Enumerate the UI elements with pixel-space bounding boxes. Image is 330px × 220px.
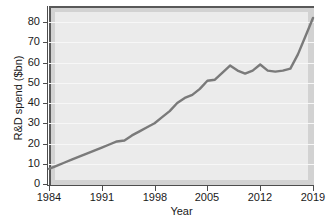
series-line-rd-spend [49, 18, 313, 169]
y-axis-title: R&D spend ($bn) [12, 23, 24, 173]
x-axis-title: Year [49, 205, 314, 217]
